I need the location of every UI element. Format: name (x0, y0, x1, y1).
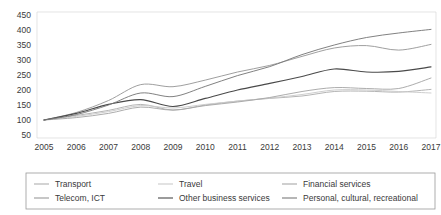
series-line-0 (44, 89, 431, 120)
series-line-3 (44, 44, 431, 120)
legend-label: Financial services (303, 179, 371, 189)
legend-label: Travel (179, 179, 202, 189)
y-tick-label: 250 (17, 70, 31, 80)
x-tick-label: 2006 (67, 142, 86, 152)
chart-series-lines (44, 29, 431, 120)
x-tick-label: 2013 (293, 142, 312, 152)
x-tick-label: 2009 (164, 142, 183, 152)
x-tick-label: 2017 (422, 142, 441, 152)
y-tick-label: 450 (17, 10, 31, 20)
x-tick-label: 2007 (99, 142, 118, 152)
y-axis-tick-labels: 50100150200250300350400450 (17, 10, 31, 140)
y-tick-label: 400 (17, 25, 31, 35)
y-tick-label: 350 (17, 40, 31, 50)
chart-canvas: 50100150200250300350400450 2005200620072… (0, 0, 441, 215)
line-chart-figure: 50100150200250300350400450 2005200620072… (0, 0, 441, 215)
legend-item[interactable]: Personal, cultural, recreational (282, 193, 418, 203)
x-tick-label: 2016 (389, 142, 408, 152)
x-tick-label: 2014 (325, 142, 344, 152)
x-tick-label: 2012 (260, 142, 279, 152)
legend-label: Telecom, ICT (55, 193, 105, 203)
series-line-1 (44, 90, 431, 120)
y-tick-label: 100 (17, 115, 31, 125)
chart-legend: TransportTravelFinancial servicesTelecom… (26, 173, 435, 209)
x-tick-label: 2015 (357, 142, 376, 152)
y-tick-label: 50 (22, 130, 32, 140)
y-tick-label: 200 (17, 85, 31, 95)
legend-label: Other business services (179, 193, 270, 203)
x-tick-label: 2011 (228, 142, 247, 152)
x-tick-label: 2005 (35, 142, 54, 152)
chart-axes (37, 12, 436, 138)
legend-label: Transport (55, 179, 92, 189)
series-line-4 (44, 67, 431, 120)
y-tick-label: 300 (17, 55, 31, 65)
x-tick-label: 2008 (131, 142, 150, 152)
x-tick-label: 2010 (196, 142, 215, 152)
series-line-2 (44, 78, 431, 120)
x-axis-tick-labels: 2005200620072008200920102011201220132014… (35, 142, 441, 152)
legend-label: Personal, cultural, recreational (303, 193, 418, 203)
y-tick-label: 150 (17, 100, 31, 110)
